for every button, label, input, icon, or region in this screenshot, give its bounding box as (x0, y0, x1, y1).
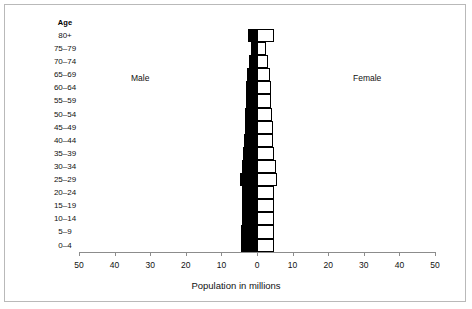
female-bar (257, 108, 272, 121)
pyramid-row (79, 108, 435, 121)
female-bar (257, 55, 268, 68)
female-bar (257, 212, 274, 225)
x-tick-mark (150, 252, 151, 256)
female-bar (257, 173, 277, 186)
pyramid-row (79, 147, 435, 160)
x-tick-mark (328, 252, 329, 256)
age-axis-header: Age (41, 17, 89, 29)
x-tick-mark (293, 252, 294, 256)
female-bar (257, 42, 266, 55)
female-bar (257, 134, 273, 147)
x-tick-label: 50 (67, 260, 91, 270)
male-bar (246, 81, 257, 94)
male-bar (248, 29, 257, 42)
x-tick-mark (399, 252, 400, 256)
pyramid-row (79, 173, 435, 186)
male-bar (249, 55, 257, 68)
x-tick-mark (221, 252, 222, 256)
male-bar (242, 160, 257, 173)
pyramid-row (79, 239, 435, 252)
x-tick-mark (257, 252, 258, 256)
male-series-label: Male (131, 73, 149, 83)
pyramid-row (79, 81, 435, 94)
female-bar (257, 81, 271, 94)
male-bar (247, 68, 257, 81)
x-tick-mark (115, 252, 116, 256)
male-bar (241, 225, 257, 238)
male-bar (245, 108, 257, 121)
female-bar (257, 147, 274, 160)
female-series-label: Female (353, 73, 381, 83)
x-tick-label: 40 (103, 260, 127, 270)
male-bar (245, 121, 257, 134)
x-tick-label: 20 (316, 260, 340, 270)
pyramid-row (79, 42, 435, 55)
x-tick-mark (79, 252, 80, 256)
male-bar (242, 186, 257, 199)
pyramid-row (79, 29, 435, 42)
pyramid-row (79, 212, 435, 225)
x-tick-label: 30 (352, 260, 376, 270)
pyramid-row (79, 134, 435, 147)
chart-figure: Age 80+75–7970–7465–6960–6455–5950–5445–… (4, 4, 466, 302)
x-axis-title: Population in millions (5, 280, 467, 291)
male-bar (243, 147, 257, 160)
male-bar (240, 173, 257, 186)
pyramid-plot-area (79, 29, 435, 252)
x-tick-mark (364, 252, 365, 256)
pyramid-row (79, 55, 435, 68)
male-bar (244, 134, 257, 147)
x-tick-mark (435, 252, 436, 256)
pyramid-row (79, 186, 435, 199)
male-bar (242, 199, 257, 212)
male-bar (246, 94, 257, 107)
female-bar (257, 186, 274, 199)
male-bar (241, 239, 257, 252)
female-bar (257, 199, 274, 212)
female-bar (257, 239, 274, 252)
x-tick-label: 20 (174, 260, 198, 270)
female-bar (257, 121, 273, 134)
x-tick-label: 10 (209, 260, 233, 270)
x-tick-label: 0 (245, 260, 269, 270)
female-bar (257, 160, 276, 173)
x-tick-mark (186, 252, 187, 256)
pyramid-row (79, 160, 435, 173)
pyramid-row (79, 121, 435, 134)
x-tick-label: 50 (423, 260, 447, 270)
male-bar (242, 212, 257, 225)
pyramid-row (79, 199, 435, 212)
x-tick-label: 40 (387, 260, 411, 270)
pyramid-row (79, 225, 435, 238)
pyramid-row (79, 94, 435, 107)
female-bar (257, 225, 274, 238)
female-bar (257, 68, 270, 81)
x-tick-label: 10 (281, 260, 305, 270)
x-tick-label: 30 (138, 260, 162, 270)
female-bar (257, 94, 271, 107)
female-bar (257, 29, 274, 42)
